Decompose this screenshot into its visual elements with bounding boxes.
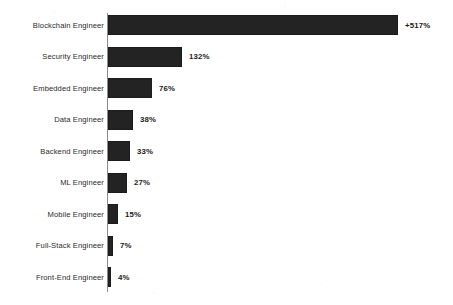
bar-value-label: 76% xyxy=(159,84,175,93)
bar-and-value: 4% xyxy=(108,266,130,288)
bar-value-label: 38% xyxy=(140,115,156,124)
bar-row: ML Engineer27% xyxy=(0,172,453,194)
bar xyxy=(108,110,133,130)
category-label: Full-Stack Engineer xyxy=(0,241,104,250)
bar-row: Full-Stack Engineer7% xyxy=(0,235,453,257)
category-label: Backend Engineer xyxy=(0,147,104,156)
category-label: Mobile Engineer xyxy=(0,210,104,219)
bar-row: Embedded Engineer76% xyxy=(0,77,453,99)
category-label: Embedded Engineer xyxy=(0,84,104,93)
bar xyxy=(108,173,127,193)
bar-row: Front-End Engineer4% xyxy=(0,266,453,288)
bar-and-value: +517% xyxy=(108,14,431,36)
bar-row: Data Engineer38% xyxy=(0,109,453,131)
bar-and-value: 76% xyxy=(108,77,175,99)
bar-row: Backend Engineer33% xyxy=(0,140,453,162)
bar-and-value: 27% xyxy=(108,172,150,194)
bar-and-value: 33% xyxy=(108,140,153,162)
category-label: ML Engineer xyxy=(0,178,104,187)
bar xyxy=(108,204,118,224)
bar xyxy=(108,236,113,256)
bar-chart: Blockchain Engineer+517%Security Enginee… xyxy=(0,0,453,305)
category-label: Front-End Engineer xyxy=(0,273,104,282)
bar-row: Blockchain Engineer+517% xyxy=(0,14,453,36)
bar-value-label: 33% xyxy=(137,147,153,156)
bar-and-value: 15% xyxy=(108,203,141,225)
bar-and-value: 132% xyxy=(108,46,210,68)
category-label: Data Engineer xyxy=(0,115,104,124)
bar-and-value: 38% xyxy=(108,109,156,131)
bar-value-label: 132% xyxy=(189,52,210,61)
bar xyxy=(108,15,398,35)
bar-value-label: 7% xyxy=(120,241,132,250)
bar xyxy=(108,47,182,67)
bar-value-label: 27% xyxy=(134,178,150,187)
category-label: Blockchain Engineer xyxy=(0,21,104,30)
bar xyxy=(108,78,152,98)
bar xyxy=(108,141,130,161)
bar-row: Mobile Engineer15% xyxy=(0,203,453,225)
plot-area: Blockchain Engineer+517%Security Enginee… xyxy=(0,0,453,305)
category-label: Security Engineer xyxy=(0,52,104,61)
bar-value-label: 15% xyxy=(125,210,141,219)
bar xyxy=(108,267,111,287)
bar-value-label: 4% xyxy=(118,273,130,282)
bar-value-label: +517% xyxy=(405,21,431,30)
bar-and-value: 7% xyxy=(108,235,132,257)
bar-row: Security Engineer132% xyxy=(0,46,453,68)
